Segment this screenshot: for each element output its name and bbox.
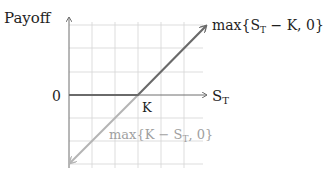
payoff-diagram: Payoff 0 K ST max{ST − K, 0} max{K − ST,… — [0, 0, 324, 179]
call-payoff-label: max{ST − K, 0} — [212, 17, 324, 35]
y-axis-label: Payoff — [4, 9, 52, 27]
x-axis-label: ST — [212, 87, 229, 106]
zero-label: 0 — [52, 88, 61, 104]
call-payoff-line — [69, 26, 206, 95]
strike-label: K — [142, 100, 152, 115]
put-payoff-label: max{K − ST, 0} — [109, 127, 213, 144]
